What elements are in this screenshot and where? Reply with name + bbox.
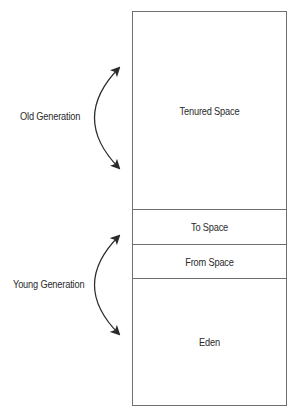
to-space-label: To Space: [191, 221, 228, 233]
heap-box: Tenured Space To Space From Space Eden: [132, 11, 287, 406]
to-space-region: To Space: [142, 210, 277, 244]
young-generation-label: Young Generation: [13, 278, 84, 290]
old-generation-arrow-icon: [95, 68, 120, 168]
from-space-label: From Space: [185, 256, 234, 268]
old-generation-label: Old Generation: [20, 110, 80, 122]
young-generation-arrow-icon: [95, 236, 120, 334]
eden-region: Eden: [142, 279, 277, 405]
eden-label: Eden: [199, 336, 220, 348]
tenured-space-label: Tenured Space: [180, 105, 240, 117]
from-space-region: From Space: [142, 245, 277, 278]
tenured-space-region: Tenured Space: [142, 12, 277, 209]
